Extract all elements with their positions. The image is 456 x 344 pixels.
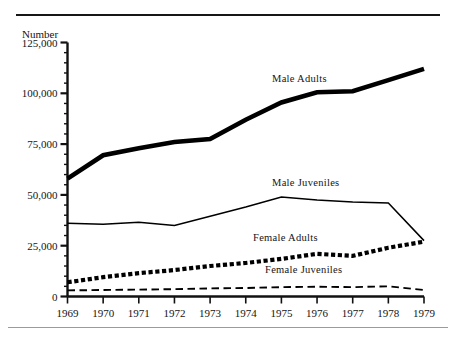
series-label-female-adults: Female Adults	[253, 232, 318, 243]
series-line-female-adults	[68, 242, 425, 283]
series-line-male-adults	[68, 69, 425, 179]
x-axis-tick-label-1971: 1971	[128, 307, 150, 319]
chart-axes	[61, 43, 425, 304]
x-axis-tick-label-1972: 1972	[163, 307, 185, 319]
x-axis-tick-label-1977: 1977	[342, 307, 364, 319]
y-axis-tick-label-0: 0	[0, 291, 58, 303]
x-axis-tick-label-1975: 1975	[270, 307, 292, 319]
y-axis-tick-label-2: 50,000	[0, 189, 58, 201]
x-axis-tick-label-1974: 1974	[235, 307, 257, 319]
series-line-male-juveniles	[68, 197, 425, 241]
chart-plot-area: Number 025,00050,00075,000100,000125,000…	[0, 0, 456, 344]
x-axis-tick-label-1979: 1979	[413, 307, 435, 319]
series-label-female-juveniles: Female Juveniles	[265, 264, 342, 275]
series-line-female-juveniles	[68, 286, 425, 290]
series-label-male-juveniles: Male Juveniles	[272, 177, 339, 188]
x-axis-tick-label-1969: 1969	[57, 307, 79, 319]
x-axis-tick-label-1976: 1976	[306, 307, 328, 319]
series-label-male-adults: Male Adults	[272, 73, 327, 84]
line-chart-canvas	[0, 0, 456, 344]
y-axis-tick-label-4: 100,000	[0, 87, 58, 99]
x-axis-tick-label-1970: 1970	[92, 307, 114, 319]
figure-container: Number 025,00050,00075,000100,000125,000…	[0, 0, 456, 344]
y-axis-tick-label-5: 125,000	[0, 37, 58, 49]
x-axis-tick-label-1973: 1973	[199, 307, 221, 319]
chart-series	[68, 69, 425, 290]
y-axis-tick-label-3: 75,000	[0, 138, 58, 150]
x-axis-tick-label-1978: 1978	[377, 307, 399, 319]
y-axis-tick-label-1: 25,000	[0, 240, 58, 252]
